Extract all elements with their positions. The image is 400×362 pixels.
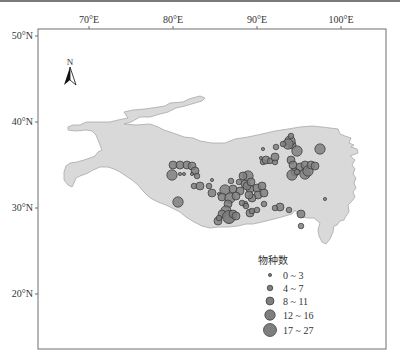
legend-label: 12 ~ 16 [283, 310, 313, 321]
legend-label: 8 ~ 11 [283, 296, 308, 307]
species-point [288, 133, 294, 139]
species-point [280, 141, 286, 147]
legend-swatch [265, 310, 275, 320]
species-point [315, 144, 325, 154]
species-point [194, 173, 200, 179]
species-point [254, 207, 260, 213]
north-label: N [67, 57, 74, 67]
species-point [210, 178, 213, 181]
species-point [178, 172, 181, 175]
species-point [232, 192, 240, 200]
species-point [272, 205, 278, 211]
species-point [243, 203, 249, 209]
species-point [292, 146, 302, 156]
species-point [216, 215, 222, 221]
species-point [245, 191, 253, 199]
species-point [298, 223, 304, 229]
species-point [173, 197, 183, 207]
species-point [294, 169, 300, 175]
species-point [232, 212, 240, 220]
legend-title: 物种数 [258, 254, 288, 266]
species-point [323, 197, 326, 200]
lon-label-90: 90°E [247, 14, 267, 25]
legend-swatch [266, 297, 274, 305]
species-point [297, 210, 305, 218]
legend-label: 0 ~ 3 [283, 270, 303, 281]
legend-swatch [264, 324, 277, 337]
legend-swatch [268, 273, 271, 276]
species-point [208, 189, 216, 197]
species-point [196, 182, 204, 190]
legend-label: 17 ~ 27 [283, 325, 313, 336]
lat-label-40: 40°N [12, 116, 33, 127]
species-point [286, 207, 292, 213]
lon-label-80: 80°E [163, 14, 183, 25]
species-point [261, 201, 267, 207]
map-figure: 70°E 80°E 90°E 100°E 50°N 40°N 30°N 20°N… [0, 0, 400, 362]
lon-label-70: 70°E [79, 14, 99, 25]
species-point [239, 172, 247, 180]
lon-label-100: 100°E [328, 14, 353, 25]
species-point [260, 189, 268, 197]
legend-item: 17 ~ 27 [264, 324, 314, 337]
species-point [311, 162, 319, 170]
species-point [247, 178, 255, 186]
species-point [249, 208, 255, 214]
legend-item: 12 ~ 16 [265, 310, 314, 321]
species-point [273, 144, 279, 150]
species-point [206, 183, 212, 189]
lat-label-50: 50°N [12, 30, 33, 41]
species-point [271, 153, 279, 161]
species-point [167, 170, 177, 180]
species-point [182, 172, 185, 175]
legend-swatch [267, 285, 273, 291]
lat-label-30: 30°N [12, 202, 33, 213]
legend-label: 4 ~ 7 [283, 283, 303, 294]
species-point [228, 178, 234, 184]
species-point [261, 147, 264, 150]
lat-label-20: 20°N [12, 288, 33, 299]
species-point [190, 172, 193, 175]
